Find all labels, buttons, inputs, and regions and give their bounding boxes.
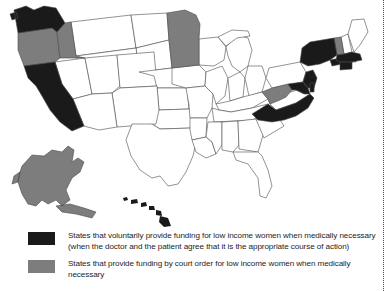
state-oregon	[18, 28, 60, 66]
state-alaska	[12, 146, 96, 218]
legend-label-court-order: States that provide funding by court ord…	[68, 259, 351, 280]
legend-label-voluntary: States that voluntarily provide funding …	[68, 231, 376, 252]
legend-court-order-line1: States that provide funding by court ord…	[68, 259, 351, 268]
state-arkansas	[190, 118, 207, 140]
legend-swatch-black	[28, 232, 55, 245]
state-kansas	[157, 88, 189, 110]
state-washington	[10, 6, 65, 33]
map-figure: States that voluntarily provide funding …	[0, 0, 392, 291]
state-hawaii	[123, 197, 171, 227]
legend-voluntary-line1: States that voluntarily provide funding …	[68, 231, 376, 240]
legend-item-voluntary: States that voluntarily provide funding …	[0, 231, 380, 252]
legend-swatch-gray	[28, 260, 55, 273]
map-svg	[0, 0, 380, 228]
state-connecticut	[340, 62, 352, 70]
state-alabama	[222, 121, 239, 152]
us-state-map	[0, 0, 380, 228]
state-indiana	[228, 72, 245, 101]
legend-court-order-line2: necessary	[68, 270, 351, 281]
state-florida	[233, 152, 272, 198]
legend-voluntary-line2: (when the doctor and the patient agree t…	[68, 242, 376, 253]
state-missouri	[186, 86, 213, 118]
state-colorado	[117, 52, 157, 88]
state-minnesota	[167, 10, 200, 68]
state-iowa	[172, 65, 206, 88]
state-texas	[126, 124, 196, 186]
legend-item-court-order: States that provide funding by court ord…	[0, 259, 380, 280]
map-legend: States that voluntarily provide funding …	[0, 231, 380, 287]
page-edge-rule	[383, 0, 385, 291]
state-new-mexico	[112, 86, 159, 127]
